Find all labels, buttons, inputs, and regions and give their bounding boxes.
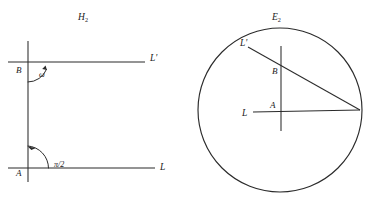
figure-page: H2 B A ω π/2 L' L E2 [0,0,372,205]
line-label-l-hyperbolic: L [159,162,165,172]
panel-title-hyperbolic: H2 [77,12,88,23]
line-label-l-prime-hyperbolic: L' [149,53,158,63]
panel-title-euclidean: E2 [271,12,281,23]
point-label-b-euclidean: B [272,66,278,76]
point-label-a-euclidean: A [269,100,276,110]
euclidean-panel: E2 B A L L' [198,12,362,192]
hyperbolic-panel: H2 B A ω π/2 L' L [8,12,165,182]
line-l-prime-euclidean [248,47,360,110]
line-label-l-euclidean: L [241,108,247,118]
point-label-b-hyperbolic: B [16,65,22,75]
geometry-figure: H2 B A ω π/2 L' L E2 [0,0,372,205]
line-l-euclidean [253,110,360,112]
angle-label-omega: ω [39,70,45,79]
point-label-a-hyperbolic: A [15,168,22,178]
line-label-l-prime-euclidean: L' [239,38,248,48]
angle-label-pi-over-two: π/2 [54,160,64,169]
